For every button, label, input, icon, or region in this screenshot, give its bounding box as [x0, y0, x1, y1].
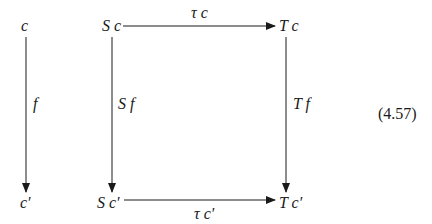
object-c: c — [21, 18, 28, 34]
equation-number: (4.57) — [378, 106, 417, 122]
morphism-tau-c-prime-label: τ c′ — [194, 206, 214, 222]
object-c-prime: c′ — [20, 195, 31, 211]
morphism-Sf-label: S f — [118, 96, 134, 112]
morphism-Tf-label: T f — [293, 96, 310, 112]
object-Tc: T c — [279, 18, 299, 34]
diagram-arrows — [0, 0, 432, 224]
object-Tc-prime: T c′ — [279, 195, 302, 211]
object-Sc: S c — [102, 18, 121, 34]
morphism-f-label: f — [33, 96, 37, 112]
morphism-tau-c-label: τ c — [191, 5, 208, 21]
object-Sc-prime: S c′ — [97, 195, 120, 211]
